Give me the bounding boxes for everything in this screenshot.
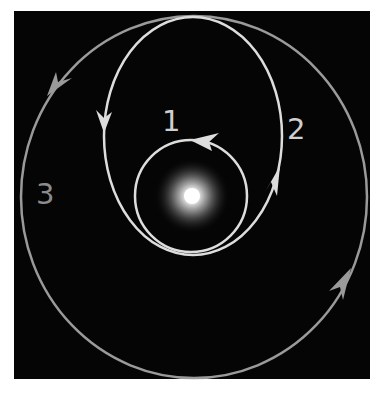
orbit-2-label: 2	[287, 112, 305, 146]
orbit-1-arrow-icon	[190, 133, 219, 151]
orbit-3-arrow-down-icon	[47, 72, 72, 96]
star-icon	[184, 188, 200, 204]
orbit-3-label: 3	[36, 177, 54, 211]
orbit-diagram: 1 2 3	[0, 0, 383, 394]
orbit-2-arrow-down-icon	[96, 110, 112, 133]
orbit-1-label: 1	[162, 104, 180, 138]
